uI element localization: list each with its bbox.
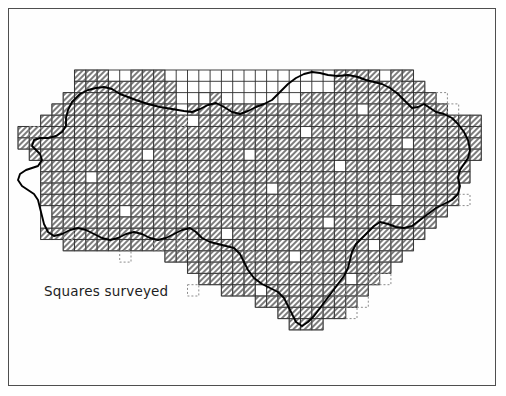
grid-square-unsurveyed bbox=[301, 127, 312, 138]
grid-square-surveyed bbox=[267, 138, 278, 149]
grid-square-surveyed bbox=[41, 160, 52, 171]
grid-square-surveyed bbox=[301, 228, 312, 239]
grid-square-surveyed bbox=[278, 115, 289, 126]
grid-square-surveyed bbox=[176, 206, 187, 217]
grid-square-surveyed bbox=[402, 81, 413, 92]
grid-square-surveyed bbox=[334, 240, 345, 251]
grid-square-surveyed bbox=[357, 183, 368, 194]
grid-square-surveyed bbox=[425, 217, 436, 228]
grid-square-surveyed bbox=[176, 138, 187, 149]
grid-square-surveyed bbox=[154, 160, 165, 171]
grid-square-surveyed bbox=[357, 217, 368, 228]
grid-square-surveyed bbox=[289, 262, 300, 273]
grid-square-surveyed bbox=[357, 273, 368, 284]
grid-square-surveyed bbox=[267, 160, 278, 171]
grid-square-surveyed bbox=[380, 149, 391, 160]
grid-square-surveyed bbox=[334, 194, 345, 205]
grid-square-surveyed bbox=[154, 149, 165, 160]
grid-square-surveyed bbox=[346, 296, 357, 307]
grid-square-surveyed bbox=[165, 194, 176, 205]
grid-square-surveyed bbox=[357, 149, 368, 160]
grid-square-surveyed bbox=[312, 319, 323, 330]
grid-square-surveyed bbox=[86, 149, 97, 160]
grid-square-surveyed bbox=[346, 217, 357, 228]
grid-square-surveyed bbox=[301, 206, 312, 217]
grid-square-surveyed bbox=[301, 240, 312, 251]
grid-square-surveyed bbox=[233, 115, 244, 126]
grid-square-surveyed bbox=[75, 217, 86, 228]
grid-square-surveyed bbox=[210, 115, 221, 126]
grid-square-surveyed bbox=[323, 262, 334, 273]
grid-square-surveyed bbox=[165, 149, 176, 160]
grid-square-surveyed bbox=[142, 81, 153, 92]
grid-square-surveyed bbox=[267, 240, 278, 251]
grid-square-surveyed bbox=[391, 115, 402, 126]
grid-square-surveyed bbox=[289, 183, 300, 194]
grid-square-surveyed bbox=[199, 206, 210, 217]
grid-square-outside-dashed bbox=[436, 93, 447, 104]
grid-square-surveyed bbox=[176, 194, 187, 205]
grid-square-surveyed bbox=[244, 217, 255, 228]
grid-square-surveyed bbox=[346, 206, 357, 217]
grid-square-surveyed bbox=[63, 217, 74, 228]
grid-square-surveyed bbox=[52, 138, 63, 149]
grid-square-surveyed bbox=[131, 240, 142, 251]
grid-square-surveyed bbox=[199, 115, 210, 126]
grid-square-surveyed bbox=[278, 217, 289, 228]
grid-square-surveyed bbox=[312, 172, 323, 183]
grid-square-surveyed bbox=[301, 149, 312, 160]
grid-square-surveyed bbox=[210, 262, 221, 273]
grid-square-surveyed bbox=[323, 240, 334, 251]
grid-square-surveyed bbox=[97, 70, 108, 81]
grid-square-surveyed bbox=[312, 115, 323, 126]
grid-square-surveyed bbox=[278, 160, 289, 171]
grid-square-surveyed bbox=[470, 149, 481, 160]
grid-square-surveyed bbox=[278, 206, 289, 217]
grid-square-surveyed bbox=[165, 240, 176, 251]
grid-square-surveyed bbox=[346, 228, 357, 239]
grid-square-surveyed bbox=[210, 138, 221, 149]
grid-square-surveyed bbox=[75, 104, 86, 115]
grid-square-surveyed bbox=[414, 81, 425, 92]
grid-square-surveyed bbox=[199, 273, 210, 284]
grid-square-surveyed bbox=[289, 296, 300, 307]
grid-square-surveyed bbox=[154, 172, 165, 183]
grid-square-surveyed bbox=[63, 172, 74, 183]
grid-square-surveyed bbox=[75, 194, 86, 205]
grid-square-surveyed bbox=[154, 217, 165, 228]
grid-square-surveyed bbox=[142, 206, 153, 217]
grid-square-surveyed bbox=[221, 251, 232, 262]
grid-square-surveyed bbox=[323, 307, 334, 318]
grid-square-surveyed bbox=[97, 160, 108, 171]
grid-square-surveyed bbox=[108, 217, 119, 228]
grid-square-surveyed bbox=[244, 127, 255, 138]
grid-square-surveyed bbox=[210, 149, 221, 160]
grid-square-surveyed bbox=[255, 115, 266, 126]
grid-square-surveyed bbox=[221, 273, 232, 284]
grid-square-surveyed bbox=[447, 160, 458, 171]
grid-square-surveyed bbox=[346, 138, 357, 149]
grid-square-surveyed bbox=[108, 240, 119, 251]
grid-square-surveyed bbox=[63, 194, 74, 205]
grid-square-surveyed bbox=[289, 273, 300, 284]
grid-square-surveyed bbox=[154, 115, 165, 126]
grid-square-surveyed bbox=[75, 172, 86, 183]
grid-square-surveyed bbox=[289, 240, 300, 251]
grid-square-surveyed bbox=[199, 194, 210, 205]
grid-square-surveyed bbox=[301, 307, 312, 318]
grid-square-unsurveyed bbox=[334, 160, 345, 171]
grid-square-surveyed bbox=[244, 172, 255, 183]
grid-square-surveyed bbox=[233, 127, 244, 138]
grid-square-surveyed bbox=[165, 115, 176, 126]
grid-square-surveyed bbox=[312, 262, 323, 273]
grid-square-surveyed bbox=[267, 194, 278, 205]
grid-square-surveyed bbox=[131, 104, 142, 115]
grid-square-surveyed bbox=[312, 104, 323, 115]
grid-square-surveyed bbox=[210, 273, 221, 284]
grid-square-surveyed bbox=[414, 115, 425, 126]
grid-square-surveyed bbox=[414, 93, 425, 104]
grid-square-unsurveyed bbox=[391, 194, 402, 205]
grid-square-surveyed bbox=[312, 160, 323, 171]
grid-square-surveyed bbox=[233, 138, 244, 149]
grid-square-surveyed bbox=[391, 70, 402, 81]
